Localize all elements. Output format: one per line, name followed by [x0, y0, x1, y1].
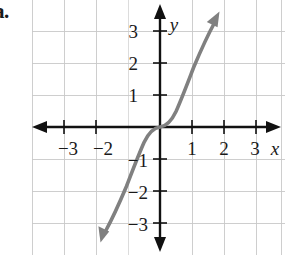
y-tick-label-2: 2 — [129, 53, 139, 74]
y-tick-label-3: 3 — [129, 21, 139, 42]
x-axis-arrow-right — [266, 121, 281, 133]
y-tick-label-neg3: −3 — [128, 214, 148, 235]
curve-arrow-upper — [207, 12, 220, 28]
x-axis-arrow-left — [32, 121, 47, 133]
y-tick-label-neg2: −2 — [128, 182, 148, 203]
x-tick-label-2: 2 — [219, 138, 229, 159]
y-axis-label: y — [168, 14, 179, 35]
y-tick-label-neg1: −1 — [128, 150, 148, 171]
y-axis-arrow-down — [154, 237, 166, 252]
x-tick-label-1: 1 — [187, 138, 197, 159]
x-tick-label-neg3: −3 — [58, 138, 78, 159]
x-tick-label-neg2: −2 — [93, 138, 113, 159]
y-tick-label-1: 1 — [129, 85, 139, 106]
coordinate-graph: 3 2 1 −1 −2 −3 −3 −2 1 2 3 y x — [0, 0, 285, 255]
graph-svg: 3 2 1 −1 −2 −3 −3 −2 1 2 3 y x — [0, 0, 285, 255]
figure-container: a. — [0, 0, 285, 255]
x-axis-label: x — [270, 138, 280, 159]
y-axis-arrow-up — [154, 4, 166, 19]
x-tick-label-3: 3 — [250, 138, 260, 159]
